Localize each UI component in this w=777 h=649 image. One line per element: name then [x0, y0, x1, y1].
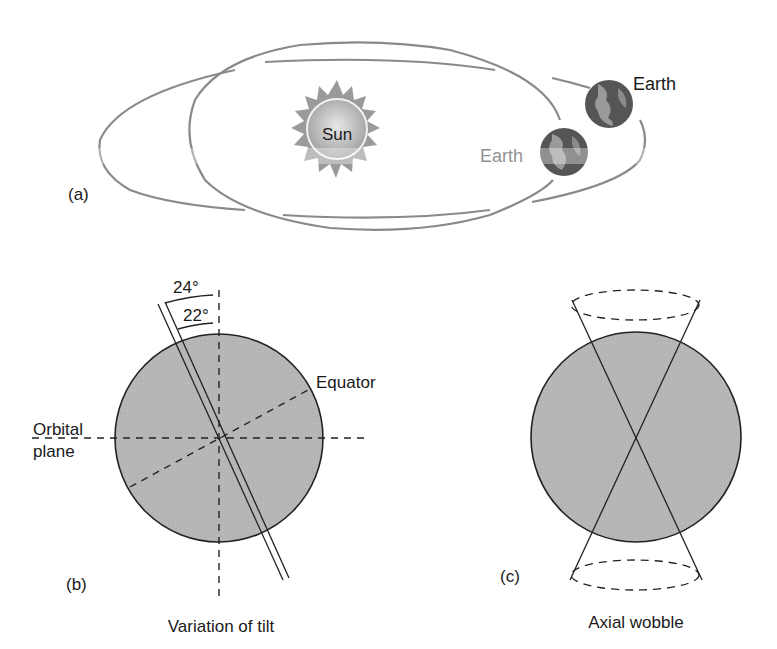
- earth-label-aphelion: Earth: [633, 74, 676, 94]
- orbital-plane-label-line2: plane: [33, 442, 75, 461]
- sun-label: Sun: [322, 125, 352, 144]
- orbital-plane-label-line1: Orbital: [33, 420, 83, 439]
- panel-a-label: (a): [68, 185, 89, 204]
- circular-orbit: [189, 42, 560, 229]
- precession-cone-bottom: [571, 560, 699, 590]
- panel-b-label: (b): [66, 575, 87, 594]
- earth-icon-aphelion: [585, 80, 633, 128]
- panel-c-label: (c): [500, 567, 520, 586]
- panel-b-caption: Variation of tilt: [168, 617, 275, 636]
- precession-cone-top: [571, 290, 699, 320]
- scan-artifact: [0, 148, 777, 164]
- angle-label-22: 22°: [183, 306, 209, 325]
- panel-b-obliquity: 24° 22° Equator Orbital plane (b) Variat…: [32, 278, 376, 636]
- milankovitch-diagram: Sun Earth Earth (a): [0, 0, 777, 649]
- panel-c-caption: Axial wobble: [588, 613, 683, 632]
- angle-label-24: 24°: [173, 278, 199, 297]
- panel-a-eccentricity: Sun Earth Earth (a): [0, 42, 777, 229]
- panel-c-precession: (c) Axial wobble: [500, 290, 741, 632]
- equator-label: Equator: [316, 373, 376, 392]
